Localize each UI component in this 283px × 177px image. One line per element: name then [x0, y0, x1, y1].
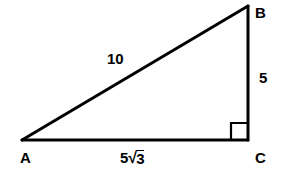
radical-coefficient: 5	[120, 150, 128, 167]
vertex-label-a: A	[20, 150, 31, 165]
right-angle-marker-icon	[231, 123, 247, 139]
radical-expression: 5 √ 3	[120, 150, 144, 168]
side-length-label-base-leg: 5 √ 3	[120, 150, 144, 168]
side-length-label-vertical-leg: 5	[259, 70, 267, 85]
vertex-label-c: C	[255, 150, 266, 165]
radical-radicand: 3	[136, 150, 144, 168]
vertex-label-b: B	[255, 5, 266, 20]
side-length-label-hypotenuse: 10	[107, 51, 124, 66]
side-hypotenuse-ab	[22, 6, 248, 140]
geometry-figure: B A C 10 5 5 √ 3	[0, 0, 283, 177]
